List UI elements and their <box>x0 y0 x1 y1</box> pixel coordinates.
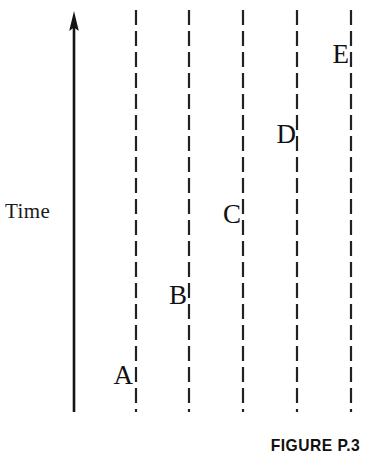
world-line-label-a: A <box>113 362 133 389</box>
world-line-label-b: B <box>167 282 187 309</box>
world-line-label-d: D <box>272 121 296 148</box>
world-line-label-c: C <box>219 201 241 228</box>
time-axis-arrow <box>69 11 79 412</box>
time-axis-label: Time <box>5 201 50 222</box>
figure-canvas: Time A B C D E FIGURE P.3 <box>0 0 367 460</box>
world-line-label-e: E <box>329 41 349 68</box>
world-line-group <box>136 10 351 412</box>
figure-caption: FIGURE P.3 <box>271 437 360 454</box>
figure-graphics <box>0 0 367 460</box>
